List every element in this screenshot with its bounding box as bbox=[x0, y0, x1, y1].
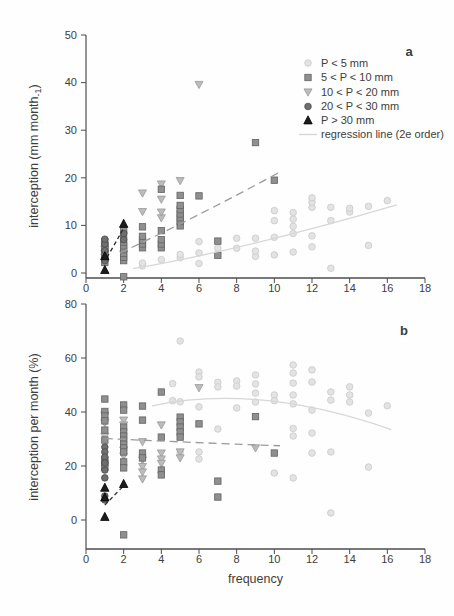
x-tick-label: 16 bbox=[381, 282, 393, 294]
y-tick-label: 20 bbox=[65, 460, 77, 472]
data-point bbox=[102, 427, 108, 433]
x-tick-label: 8 bbox=[234, 282, 240, 294]
y-tick-label: 10 bbox=[65, 219, 77, 231]
data-point bbox=[101, 265, 109, 273]
legend-marker-triangle-up bbox=[304, 116, 312, 124]
data-point bbox=[102, 460, 109, 467]
data-point bbox=[120, 459, 126, 465]
y-tick-label: 50 bbox=[65, 29, 77, 41]
data-point bbox=[328, 265, 335, 272]
data-point bbox=[139, 455, 145, 461]
data-point bbox=[290, 209, 297, 216]
data-point bbox=[102, 418, 108, 424]
data-point bbox=[365, 464, 372, 471]
data-point bbox=[157, 422, 165, 429]
data-point bbox=[139, 403, 145, 409]
y-tick-label: 30 bbox=[65, 124, 77, 136]
data-point bbox=[215, 478, 221, 484]
data-point bbox=[215, 494, 221, 500]
data-point bbox=[177, 202, 183, 208]
x-tick-label: 10 bbox=[268, 553, 280, 565]
data-point bbox=[176, 178, 184, 185]
y-tick-label: 20 bbox=[65, 172, 77, 184]
legend-label: P > 30 mm bbox=[321, 114, 374, 126]
data-point bbox=[290, 223, 297, 230]
data-point bbox=[309, 367, 316, 374]
data-point bbox=[177, 434, 183, 440]
legend-label: regression line (2e order) bbox=[321, 128, 444, 140]
data-point bbox=[271, 207, 278, 214]
panel-b: 024681012141618020406080interception per… bbox=[27, 298, 431, 586]
x-tick-label: 4 bbox=[158, 553, 164, 565]
x-tick-label: 8 bbox=[234, 553, 240, 565]
data-point bbox=[233, 405, 240, 412]
data-point bbox=[177, 251, 184, 258]
data-point bbox=[177, 192, 183, 198]
y-tick-label: 40 bbox=[65, 76, 77, 88]
data-point bbox=[290, 392, 297, 399]
data-point bbox=[252, 390, 259, 397]
data-point bbox=[101, 512, 109, 520]
data-point bbox=[309, 450, 316, 457]
data-point bbox=[233, 383, 240, 390]
series-triangle-down bbox=[101, 81, 203, 261]
panel-a: 02468101214161801020304050interception (… bbox=[27, 29, 431, 294]
panel-label-a: a bbox=[405, 44, 413, 59]
series-square bbox=[102, 139, 278, 280]
data-point bbox=[196, 456, 203, 463]
data-point bbox=[328, 397, 335, 404]
data-point bbox=[139, 417, 145, 423]
x-tick-label: 14 bbox=[344, 282, 356, 294]
y-axis-title: interception (mm month-1) bbox=[27, 84, 43, 228]
x-tick-label: 2 bbox=[121, 553, 127, 565]
data-point bbox=[215, 252, 221, 258]
series-triangle-up bbox=[101, 479, 128, 520]
x-tick-label: 14 bbox=[344, 553, 356, 565]
data-point bbox=[196, 238, 203, 245]
figure-scatter-interception: 02468101214161801020304050interception (… bbox=[0, 0, 454, 616]
x-tick-label: 12 bbox=[306, 553, 318, 565]
data-point bbox=[215, 426, 222, 433]
data-point bbox=[271, 450, 277, 456]
data-point bbox=[215, 245, 222, 252]
data-point bbox=[157, 460, 165, 467]
x-tick-label: 18 bbox=[419, 553, 431, 565]
x-tick-label: 6 bbox=[196, 282, 202, 294]
data-point bbox=[196, 404, 203, 411]
data-point bbox=[252, 235, 259, 242]
legend-label: 5 < P < 10 mm bbox=[321, 71, 393, 83]
data-point bbox=[346, 205, 353, 212]
x-tick-label: 16 bbox=[381, 553, 393, 565]
data-point bbox=[101, 483, 109, 491]
series-square bbox=[102, 389, 278, 538]
data-point bbox=[102, 236, 109, 243]
data-point bbox=[102, 475, 109, 482]
data-point bbox=[139, 190, 147, 197]
data-point bbox=[102, 467, 109, 474]
y-tick-label: 0 bbox=[71, 514, 77, 526]
data-point bbox=[384, 197, 391, 204]
data-point bbox=[328, 204, 335, 211]
chart-canvas: 02468101214161801020304050interception (… bbox=[0, 0, 454, 616]
x-tick-label: 0 bbox=[83, 553, 89, 565]
data-point bbox=[158, 186, 164, 192]
data-point bbox=[309, 194, 316, 201]
regression-line bbox=[133, 205, 397, 269]
data-point bbox=[157, 196, 165, 203]
data-point bbox=[119, 479, 127, 487]
data-point bbox=[195, 81, 203, 88]
x-axis-title: frequency bbox=[228, 572, 284, 586]
data-point bbox=[176, 455, 184, 462]
data-point bbox=[158, 256, 165, 263]
x-tick-label: 4 bbox=[158, 282, 164, 294]
data-point bbox=[120, 449, 126, 455]
data-point bbox=[290, 370, 297, 377]
legend-label: 10 < P < 20 mm bbox=[321, 86, 399, 98]
data-point bbox=[271, 177, 277, 183]
data-point bbox=[120, 407, 126, 413]
panel-label-b: b bbox=[400, 323, 408, 338]
data-point bbox=[215, 384, 222, 391]
data-point bbox=[290, 433, 297, 440]
data-point bbox=[290, 362, 297, 369]
data-point bbox=[119, 219, 127, 227]
